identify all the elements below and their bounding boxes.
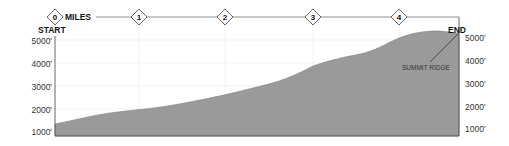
y-left-label-5000: 5000' (31, 36, 52, 46)
mile-marker-1: 1 (131, 9, 147, 25)
y-left-label-1000: 1000' (31, 127, 52, 137)
elevation-area (55, 31, 459, 136)
y-right-label-3000: 3000' (465, 79, 486, 89)
svg-text:0: 0 (53, 13, 58, 22)
elevation-profile-chart: 0 MILES 1 2 3 4 START END 5000' 4000' 30… (0, 0, 509, 146)
summit-ridge-label: SUMMIT RIDGE (402, 64, 451, 71)
svg-text:1: 1 (137, 13, 142, 22)
y-right-label-1000: 1000' (465, 124, 486, 134)
mile-marker-3: 3 (305, 9, 321, 25)
y-left-label-4000: 4000' (31, 59, 52, 69)
mile-marker-4: 4 (391, 9, 407, 25)
mile-marker-2: 2 (217, 9, 233, 25)
y-right-label-5000: 5000' (465, 33, 486, 43)
y-left-label-3000: 3000' (31, 82, 52, 92)
y-right-label-2000: 2000' (465, 102, 486, 112)
svg-text:2: 2 (223, 13, 228, 22)
miles-label: MILES (65, 12, 91, 22)
y-right-label-4000: 4000' (465, 56, 486, 66)
svg-text:3: 3 (311, 13, 316, 22)
y-left-label-2000: 2000' (31, 105, 52, 115)
end-label: END (448, 25, 466, 35)
mile-marker-0: 0 (47, 9, 63, 25)
start-label: START (38, 25, 67, 35)
svg-text:4: 4 (397, 13, 402, 22)
